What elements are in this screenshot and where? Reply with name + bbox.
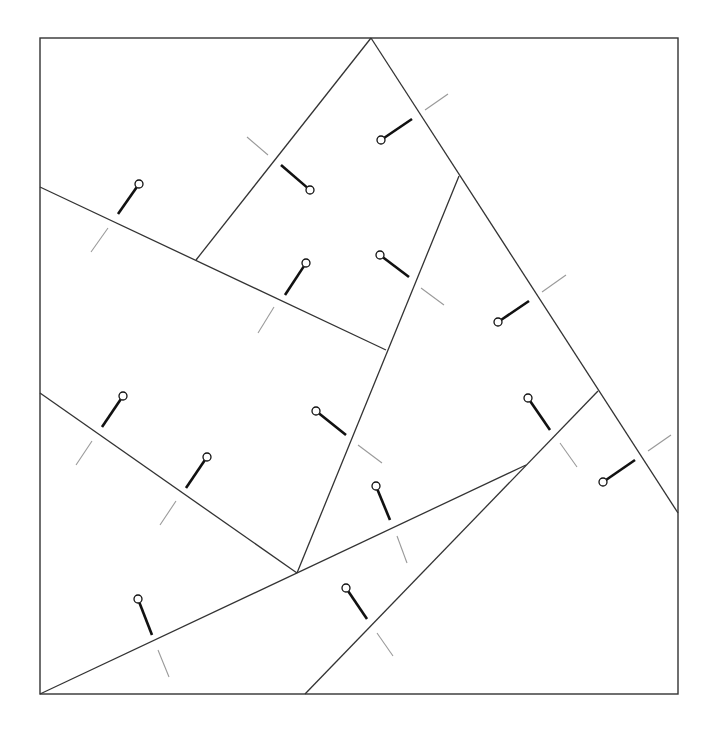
dividing-line [297, 176, 459, 573]
pin-head-icon [203, 453, 211, 461]
tick-mark [421, 288, 444, 305]
pin-head-icon [135, 180, 143, 188]
tick-mark [648, 435, 671, 451]
pin-shaft [348, 591, 367, 619]
pin-shaft [606, 460, 635, 480]
pin-marker [102, 392, 127, 427]
tick-mark [91, 228, 108, 252]
pin-head-icon [524, 394, 532, 402]
dividing-line [40, 465, 526, 694]
pin-head-icon [302, 259, 310, 267]
pin-marker [134, 595, 152, 635]
pin-marker [524, 394, 550, 430]
tick-mark [425, 94, 448, 110]
pin-head-icon [372, 482, 380, 490]
pin-shaft [319, 413, 346, 435]
dividing-line [40, 187, 386, 350]
pin-shaft [378, 490, 390, 520]
pin-marker [285, 259, 310, 295]
pin-marker [376, 251, 409, 277]
pin-head-icon [312, 407, 320, 415]
pin-head-icon [306, 186, 314, 194]
pin-marker [599, 460, 635, 486]
tick-mark [560, 443, 577, 467]
pin-shaft [118, 187, 137, 214]
pin-shaft [501, 301, 529, 320]
pin-head-icon [342, 584, 350, 592]
pin-shaft [281, 165, 307, 187]
pin-head-icon [119, 392, 127, 400]
pin-markers [102, 119, 635, 635]
pin-shaft [285, 266, 304, 295]
pin-head-icon [377, 136, 385, 144]
tick-mark [247, 137, 268, 155]
dividing-line [40, 393, 297, 573]
pin-marker [186, 453, 211, 488]
dividing-line [305, 391, 598, 694]
partition-diagram [0, 0, 704, 736]
pin-shaft [139, 603, 152, 635]
tick-mark [377, 633, 393, 656]
pin-marker [312, 407, 346, 435]
tick-mark [397, 536, 407, 563]
pin-marker [377, 119, 412, 144]
tick-mark [358, 445, 382, 463]
pin-shaft [102, 399, 121, 427]
pin-head-icon [134, 595, 142, 603]
pin-shaft [186, 460, 205, 488]
pin-shaft [530, 401, 550, 430]
tick-mark [542, 275, 566, 292]
pin-head-icon [376, 251, 384, 259]
tick-mark [158, 650, 169, 677]
dividing-line [371, 38, 678, 513]
pin-head-icon [494, 318, 502, 326]
pin-marker [118, 180, 143, 214]
pin-shaft [383, 257, 409, 277]
tick-mark [76, 441, 92, 465]
pin-marker [494, 301, 529, 326]
pin-head-icon [599, 478, 607, 486]
tick-mark [160, 501, 176, 525]
pin-marker [281, 165, 314, 194]
dividing-line [196, 38, 371, 260]
tick-mark [258, 307, 274, 333]
pin-marker [372, 482, 390, 520]
pin-marker [342, 584, 367, 619]
pin-shaft [384, 119, 412, 138]
